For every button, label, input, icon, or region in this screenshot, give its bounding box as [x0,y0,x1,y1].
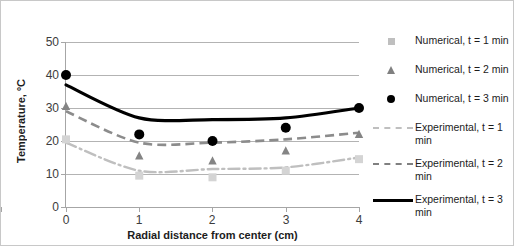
x-tick-label-4: 4 [344,213,374,227]
x-tick-mark-2 [212,207,213,212]
x-tick-mark-0 [66,207,67,212]
legend-label-experimental-t1: Experimental, t = 1 min [415,121,511,147]
solid-line-icon [373,193,415,207]
y-tick-mark-30 [61,108,66,109]
x-tick-label-2: 2 [197,213,227,227]
legend-entry-experimental-t1[interactable]: Experimental, t = 1 min [373,121,511,147]
y-tick-mark-50 [61,42,66,43]
y-axis-line [65,42,66,208]
x-tick-mark-1b [139,207,140,212]
gridline-30 [66,108,359,109]
y-tick-mark-10 [61,174,66,175]
legend-label-numerical-t2: Numerical, t = 2 min [415,63,509,76]
dash-dot-line-icon [373,121,415,135]
y-tick-label-0: 0 [19,201,59,213]
legend-entry-experimental-t2[interactable]: Experimental, t = 2 min [373,157,511,183]
legend-label-experimental-t2: Experimental, t = 2 min [415,157,511,183]
y-tick-mark-40 [61,75,66,76]
y-axis-title: Temperature, ºC [15,56,31,186]
legend-label-numerical-t1: Numerical, t = 1 min [415,34,509,47]
x-tick-label-1: 1 [124,213,154,227]
gridline-10 [66,174,359,175]
gridline-20 [66,141,359,142]
x-tick-mark-3 [286,207,287,212]
plot-area [66,42,359,207]
legend-label-numerical-t3: Numerical, t = 3 min [415,92,509,105]
legend-entry-experimental-t3[interactable]: Experimental, t = 3 min [373,193,511,219]
legend-label-experimental-t3: Experimental, t = 3 min [415,193,511,219]
chart-figure: 50 40 30 20 10 0 0 1 2 3 4 Temperature, … [0,0,514,246]
gridline-40 [66,75,359,76]
y-tick-label-50: 50 [19,36,59,48]
x-tick-label-3: 3 [271,213,301,227]
dashed-line-icon [373,157,415,171]
y-tick-mark-20 [61,141,66,142]
triangle-marker-icon [373,63,415,77]
circle-marker-icon [373,92,415,106]
legend-entry-numerical-t3[interactable]: Numerical, t = 3 min [373,92,511,106]
x-tick-mark-1 [1,207,2,212]
x-tick-mark-4 [359,207,360,212]
legend-entry-numerical-t2[interactable]: Numerical, t = 2 min [373,63,511,77]
square-marker-icon [373,34,415,48]
chart-legend: Numerical, t = 1 min Numerical, t = 2 mi… [373,34,511,230]
x-tick-label-0: 0 [51,213,81,227]
x-axis-title: Radial distance from center (cm) [65,229,360,242]
legend-entry-numerical-t1[interactable]: Numerical, t = 1 min [373,34,511,48]
gridline-50 [66,42,359,43]
